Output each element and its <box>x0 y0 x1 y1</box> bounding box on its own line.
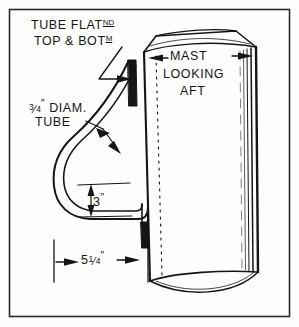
mast-tube-diagram <box>0 0 299 327</box>
inch-mark-3: " <box>101 192 105 203</box>
callout-flat-suffix: ND <box>103 18 115 27</box>
inch-mark-diam: " <box>41 98 45 109</box>
label-aft: AFT <box>180 85 205 98</box>
fraction-one-quarter: 1⁄4 <box>89 255 101 268</box>
label-looking: LOOKING <box>163 68 224 81</box>
label-mast: MAST <box>170 50 207 63</box>
figure-screenshot: TUBE FLATND TOP & BOTM 3⁄4" DIAM. TUBE M… <box>0 0 299 327</box>
dimension-label-5-25in: 51⁄4" <box>81 251 105 268</box>
callout-tube-word: TUBE <box>35 116 71 129</box>
inch-mark-5: " <box>100 250 104 261</box>
dim3-value: 3 <box>93 195 101 209</box>
dim5-whole: 5 <box>81 253 89 267</box>
callout-bot-main: TOP & BOT <box>34 34 106 48</box>
callout-tube-flattened-line2: TOP & BOTM <box>34 35 112 48</box>
callout-flat-main: TUBE FLAT <box>31 18 103 32</box>
callout-tube-diameter: 3⁄4" DIAM. <box>29 99 87 116</box>
callout-bot-suffix: M <box>106 34 113 43</box>
diam-word: DIAM. <box>49 101 87 115</box>
callout-tube-flattened-line1: TUBE FLATND <box>31 19 114 32</box>
dimension-label-3in: 3" <box>93 193 105 209</box>
